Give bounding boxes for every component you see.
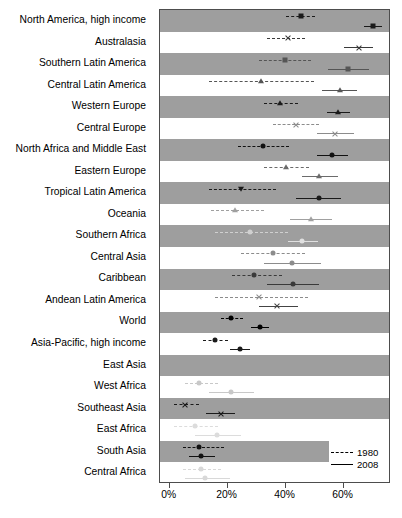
data-point-group [160,204,389,226]
row-band [160,355,389,377]
data-point-marker [289,260,294,265]
legend-line-swatch [331,452,353,453]
axis-tick [285,483,286,488]
row-label: North America, high income [0,9,152,31]
data-point-group [160,182,389,204]
data-point-group [160,247,389,269]
row-label: Central Europe [0,117,152,139]
data-point-marker [317,195,322,200]
row-label: Central Latin America [0,74,152,96]
row-label: Central Asia [0,246,152,268]
data-point-marker [217,410,224,417]
data-point-group [160,419,389,441]
row-label: Asia-Pacific, high income [0,332,152,354]
data-point-marker [214,432,219,437]
row-label: Southern Latin America [0,52,152,74]
data-point-group [160,53,389,75]
data-point-group [160,290,389,312]
axis-tick [169,483,170,488]
axis-tick-label: 60% [332,489,353,500]
data-point-marker [371,23,376,28]
data-point-marker [198,454,203,459]
legend-label: 1980 [357,447,378,458]
row-label: Caribbean [0,267,152,289]
data-point-group [160,269,389,291]
axis-tick-label: 0% [161,489,176,500]
data-point-group [160,376,389,398]
row-label: Australasia [0,31,152,53]
legend-item[interactable]: 1980 [331,446,389,458]
data-point-group [160,225,389,247]
data-point-marker [237,346,242,351]
forest-plot-chart: North America, high incomeAustralasiaSou… [0,0,402,518]
row-label: East Africa [0,418,152,440]
row-label: Tropical Latin America [0,181,152,203]
row-label: Southern Africa [0,224,152,246]
data-point-marker [316,174,322,179]
data-point-group [160,32,389,54]
axis-tick [227,483,228,488]
data-point-group [160,312,389,334]
row-label: North Africa and Middle East [0,138,152,160]
data-point-marker [346,66,351,71]
data-point-group [160,75,389,97]
axis-tick-label: 20% [216,489,237,500]
data-point-marker [258,325,263,330]
data-point-group [160,398,389,420]
plot-panel [159,9,390,483]
row-label: Andean Latin America [0,289,152,311]
data-point-marker [332,130,339,137]
row-label: World [0,310,152,332]
data-point-group [160,96,389,118]
row-label: Southeast Asia [0,397,152,419]
data-point-marker [229,389,234,394]
row-label: Eastern Europe [0,160,152,182]
data-point-group [160,139,389,161]
data-point-marker [335,109,341,114]
row-label: East Asia [0,354,152,376]
row-label: South Asia [0,440,152,462]
data-point-marker [291,282,296,287]
chart-legend: 19802008 [331,446,389,470]
data-point-marker [308,217,314,222]
x-axis: 0%20%40%60% [159,483,390,513]
legend-label: 2008 [357,459,378,470]
axis-tick [343,483,344,488]
data-point-marker [274,302,281,309]
legend-line-swatch [331,464,353,465]
data-point-group [160,10,389,32]
axis-tick-label: 40% [274,489,295,500]
data-point-marker [300,238,305,243]
legend-item[interactable]: 2008 [331,458,389,470]
row-label: Central Africa [0,461,152,483]
data-point-marker [202,475,207,480]
row-label: West Africa [0,375,152,397]
data-point-group [160,161,389,183]
data-point-group [160,333,389,355]
data-point-marker [355,44,362,51]
row-label: Western Europe [0,95,152,117]
data-point-marker [337,87,343,92]
category-label-column: North America, high incomeAustralasiaSou… [0,9,152,483]
data-point-marker [330,152,335,157]
data-point-group [160,118,389,140]
row-label: Oceania [0,203,152,225]
